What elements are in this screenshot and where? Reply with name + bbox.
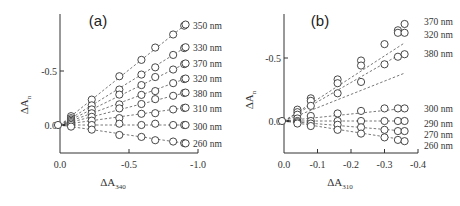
data-point [116, 120, 123, 127]
series-label: 300 nm [424, 104, 453, 114]
data-point [381, 117, 388, 124]
x-tick-label: -0.1 [310, 159, 326, 170]
series-label: 350 nm [193, 21, 222, 31]
data-point [381, 105, 388, 112]
data-point [170, 51, 177, 58]
data-point [116, 73, 123, 80]
data-point [170, 106, 177, 113]
data-point [182, 60, 189, 67]
data-point [116, 131, 123, 138]
data-point [138, 133, 145, 140]
data-point [401, 138, 408, 145]
data-point [182, 21, 189, 28]
data-point [294, 120, 301, 127]
data-point [152, 137, 159, 144]
data-point [401, 105, 408, 112]
data-point [381, 134, 388, 141]
series-label: 310 nm [193, 104, 222, 114]
fit-line [284, 73, 405, 121]
data-point [394, 53, 401, 60]
panel-label: (b) [311, 12, 329, 29]
data-point [401, 51, 408, 58]
data-point [394, 117, 401, 124]
data-point [394, 127, 401, 134]
x-tick-label: -0.2 [343, 159, 359, 170]
x-axis-label: ΔA310 [327, 176, 353, 191]
series-label: 320 nm [193, 74, 222, 84]
data-point [334, 80, 341, 87]
y-axis-label: ΔAn [243, 90, 258, 109]
data-point [152, 110, 159, 117]
data-point [116, 91, 123, 98]
data-point [170, 92, 177, 99]
data-point [334, 126, 341, 133]
data-point [334, 110, 341, 117]
data-point [152, 44, 159, 51]
data-point [138, 110, 145, 117]
data-point [394, 105, 401, 112]
series-label: 320 nm [424, 30, 453, 40]
y-axis-label: ΔAn [18, 95, 33, 114]
series-label: 300 nm [193, 122, 222, 132]
origin-marker [287, 120, 290, 123]
x-tick-label: 0.0 [278, 159, 291, 170]
data-point [307, 102, 314, 109]
data-point [67, 123, 74, 130]
x-axis-label: ΔA340 [100, 176, 126, 191]
data-point [401, 29, 408, 36]
data-point [152, 64, 159, 71]
data-point [182, 75, 189, 82]
x-tick-label: -0.4 [410, 159, 426, 170]
data-point [88, 126, 95, 133]
data-point [54, 121, 61, 128]
origin-marker [63, 124, 66, 127]
data-point [182, 140, 189, 147]
panel-a: 0.0-0.50.0-0.5-1.0(a)ΔA340ΔAn350 nm330 n… [18, 12, 222, 191]
data-point [357, 78, 364, 85]
data-point [401, 20, 408, 27]
data-point [138, 56, 145, 63]
data-point [152, 87, 159, 94]
data-point [401, 117, 408, 124]
data-point [152, 120, 159, 127]
data-point [138, 91, 145, 98]
series-label: 380 nm [193, 89, 222, 99]
y-axis-label-sub: n [25, 95, 33, 99]
data-point [182, 44, 189, 51]
data-point [170, 80, 177, 87]
data-point [307, 122, 314, 129]
data-point [152, 96, 159, 103]
x-tick-label: -1.0 [190, 159, 206, 170]
series-label: 370 nm [193, 59, 222, 69]
data-point [170, 31, 177, 38]
data-point [182, 121, 189, 128]
series-label: 290 nm [424, 119, 453, 129]
data-point [394, 29, 401, 36]
y-tick-label: -0.5 [265, 53, 281, 64]
data-point [278, 117, 285, 124]
series-label: 370 nm [424, 17, 453, 27]
data-point [170, 121, 177, 128]
x-tick-label: -0.5 [121, 159, 137, 170]
data-point [182, 89, 189, 96]
series-label: 260 nm [193, 139, 222, 149]
fit-line [60, 47, 186, 125]
data-point [170, 66, 177, 73]
data-point [152, 73, 159, 80]
data-point [334, 90, 341, 97]
data-point [357, 130, 364, 137]
data-point [394, 136, 401, 143]
data-point [401, 127, 408, 134]
data-point [381, 41, 388, 48]
data-point [138, 81, 145, 88]
x-axis-label-sub: 340 [115, 183, 126, 191]
x-axis-label-sub: 310 [342, 183, 353, 191]
data-point [357, 107, 364, 114]
data-point [357, 62, 364, 69]
data-point [138, 121, 145, 128]
data-point [381, 61, 388, 68]
series-label: 330 nm [193, 43, 222, 53]
panel-label: (a) [89, 12, 107, 29]
series-label: 260 nm [424, 141, 453, 151]
figure: 0.0-0.50.0-0.5-1.0(a)ΔA340ΔAn350 nm330 n… [0, 0, 460, 206]
